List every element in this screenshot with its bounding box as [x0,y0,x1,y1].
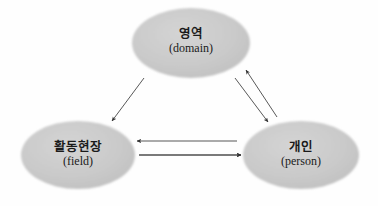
node-domain[interactable] [132,8,250,78]
node-group [21,8,359,189]
arrow-domain-to-field [246,70,277,117]
arrow-person-to-domain [235,78,268,122]
relationship-diagram: 영역 (domain) 활동현장 (field) 개인 (person) [0,0,378,206]
arrow-field-to-domain [112,78,144,121]
node-field[interactable] [21,121,135,189]
diagram-canvas [0,0,378,206]
node-person[interactable] [243,121,359,189]
